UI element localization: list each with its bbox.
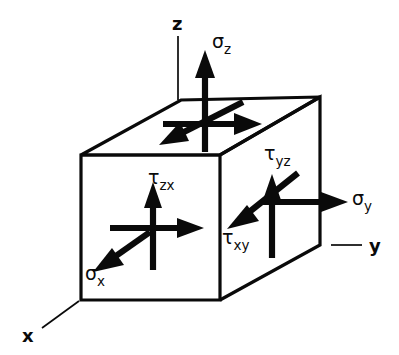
cube-group — [81, 97, 320, 300]
stress-element-diagram: z y x σz σy σx τzx τxy τyz — [0, 0, 399, 355]
sigma-y-label: σy — [352, 187, 372, 214]
x-axis-line — [42, 301, 79, 328]
stress-element-figure: z y x σz σy σx τzx τxy τyz — [0, 0, 399, 355]
z-axis-label: z — [172, 13, 182, 34]
y-axis-label: y — [369, 235, 381, 256]
x-axis-label: x — [22, 325, 34, 346]
sigma-z-label: σz — [212, 30, 231, 57]
